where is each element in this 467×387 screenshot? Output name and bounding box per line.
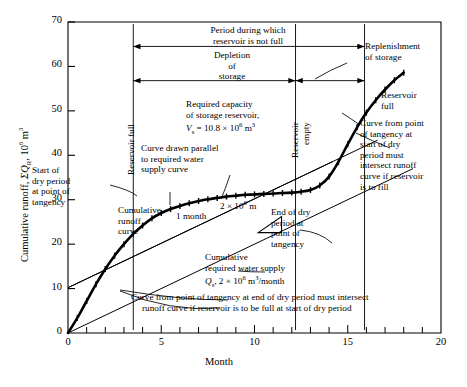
x-tick-label: 15 xyxy=(336,337,360,348)
y-tick-label: 50 xyxy=(38,104,62,115)
chart-figure: 01020304050607005101520MonthCumulative r… xyxy=(0,0,467,387)
x-tick-label: 5 xyxy=(149,337,173,348)
period-not-full-label: Period during which reservoir is not ful… xyxy=(188,25,308,46)
y-tick-label: 20 xyxy=(38,237,62,248)
y-tick-label: 10 xyxy=(38,282,62,293)
x-tick-label: 0 xyxy=(56,337,80,348)
reservoir-label-empty-b: empty xyxy=(301,122,312,145)
curve-from-start-label: Curve from point of tangency at start of… xyxy=(360,118,424,192)
y-tick-label: 40 xyxy=(38,148,62,159)
end-dry-period-label: End of dry period at point of tangency xyxy=(271,207,310,249)
reservoir-full-left-label: Reservoir full xyxy=(126,124,137,175)
start-dry-period-label: Start of dry period at point of tangency xyxy=(32,165,70,207)
depletion-label: Depletion of storage xyxy=(196,50,268,82)
reservoir-label-empty-a: Reservoir xyxy=(290,122,301,158)
text-overlay-layer: 01020304050607005101520MonthCumulative r… xyxy=(0,0,467,387)
required-capacity-label: Required capacityof storage reservoir,Vs… xyxy=(186,99,259,138)
y-tick-label: 0 xyxy=(38,326,62,337)
cumulative-runoff-curve-label: Cumulative runoff curve xyxy=(118,205,161,237)
x-tick-label: 20 xyxy=(429,337,453,348)
y-tick-label: 60 xyxy=(38,59,62,70)
bottom-note-label-2: runoff curve if reservoir is to be full … xyxy=(142,303,352,314)
bottom-note-label: Curve from point of tangency at end of d… xyxy=(131,292,369,303)
x-tick-label: 10 xyxy=(243,337,267,348)
reservoir-full-right-label: Reservoir full xyxy=(381,90,417,111)
slope-run-label: 1 month xyxy=(176,211,206,222)
slope-rise-label: 2 × 106 m xyxy=(220,198,256,212)
curve-parallel-label: Curve drawn parallel to required water s… xyxy=(141,143,219,175)
x-axis-label: Month xyxy=(205,357,233,368)
replenishment-label: Replenishment of storage xyxy=(365,41,420,62)
cumulative-supply-label: Cumulativerequired water supplyQs, 2 × 1… xyxy=(205,252,285,291)
y-tick-label: 70 xyxy=(38,15,62,26)
